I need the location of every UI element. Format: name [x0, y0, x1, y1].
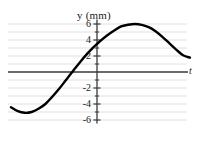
y-tick-label: -2: [0, 83, 91, 93]
y-tick-label: 2: [0, 51, 91, 61]
t-axis-title: t: [189, 66, 192, 76]
y-tick-label: 4: [0, 35, 91, 45]
waveform-figure: y (mm) t 642-2-4-6: [0, 0, 200, 141]
y-tick-label: -4: [0, 99, 91, 109]
y-tick-label: -6: [0, 115, 91, 125]
y-tick-label: 6: [0, 19, 91, 29]
